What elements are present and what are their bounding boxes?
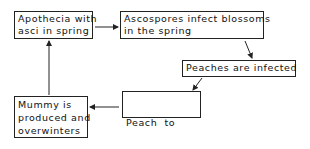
node-peaches-infected: Peaches are infected xyxy=(182,60,296,77)
node-apothecia: Apothecia with asci in spring xyxy=(14,11,93,39)
node-mummy-line-1: Mummy is xyxy=(18,98,84,111)
node-peach-to-peach: Peach to peach infection xyxy=(122,91,201,118)
node-mummy-line-3: overwinters xyxy=(18,124,84,137)
arrow-peaches-to-peach-infection xyxy=(193,78,202,90)
node-apothecia-line-1: Apothecia with xyxy=(18,13,89,25)
node-peach-to-peach-line-1: Peach to xyxy=(126,117,197,129)
node-ascospores-line-2: in the spring xyxy=(124,25,260,37)
node-mummy: Mummy is produced and overwinters xyxy=(14,96,88,138)
node-ascospores: Ascospores infect blossoms in the spring xyxy=(120,11,264,39)
node-peaches-infected-line-1: Peaches are infected xyxy=(186,62,292,74)
node-mummy-line-2: produced and xyxy=(18,111,84,124)
node-ascospores-line-1: Ascospores infect blossoms xyxy=(124,13,260,25)
arrow-ascospores-to-peaches xyxy=(245,41,252,58)
node-apothecia-line-2: asci in spring xyxy=(18,25,89,37)
